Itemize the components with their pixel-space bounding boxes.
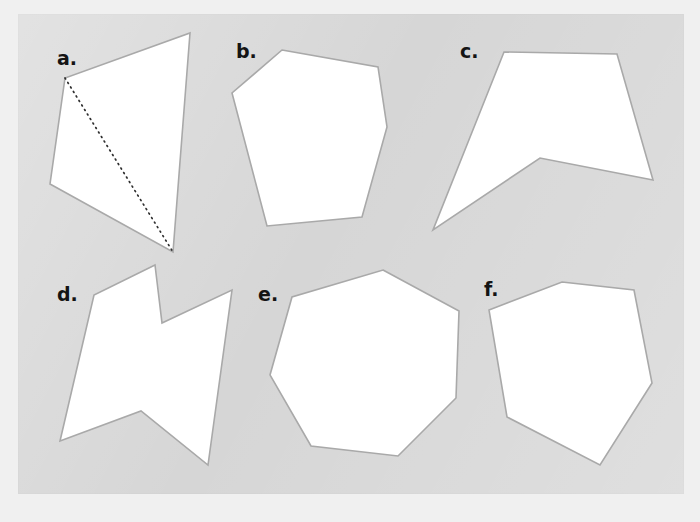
figure-b-label: b. xyxy=(236,42,257,61)
worksheet: a.b.c.d.e.f. xyxy=(0,0,700,522)
figure-a-label: a. xyxy=(57,49,77,68)
figure-e[interactable] xyxy=(270,270,459,456)
figure-d[interactable] xyxy=(60,265,232,465)
figure-b[interactable] xyxy=(232,50,387,226)
figure-e-label: e. xyxy=(258,285,278,304)
figure-d-label: d. xyxy=(57,285,78,304)
figure-c[interactable] xyxy=(433,52,653,230)
figure-layer xyxy=(0,0,700,522)
figure-f[interactable] xyxy=(489,282,652,465)
figure-f-label: f. xyxy=(484,280,498,299)
figure-c-label: c. xyxy=(460,42,478,61)
